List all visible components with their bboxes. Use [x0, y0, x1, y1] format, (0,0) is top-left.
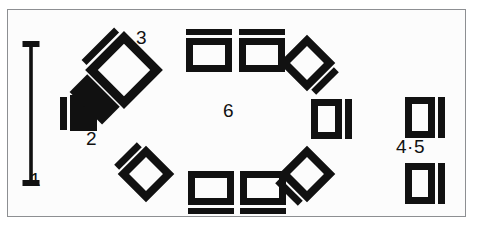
hollow-rect-top-left [186, 29, 232, 69]
label-2: 2 [86, 129, 97, 148]
figure-root: 1 2 3 4·5 6 [0, 0, 478, 233]
hollow-rect-bottom-left [188, 175, 234, 215]
hollow-rect-far-right-top [409, 97, 446, 138]
hollow-rect-far-right-bottom [409, 163, 446, 204]
hollow-rect-top-right [239, 29, 285, 69]
diamond-lower-left [114, 142, 168, 196]
diamond-upper-right [284, 40, 338, 94]
label-4-5: 4·5 [396, 137, 425, 156]
label-3: 3 [136, 28, 147, 47]
hollow-rect-bottom-right [240, 175, 286, 215]
plan-drawing [0, 0, 478, 233]
label-6: 6 [223, 101, 234, 120]
label-1: 1 [30, 170, 41, 189]
hollow-rect-right-middle [315, 99, 353, 139]
scale-bar [23, 41, 40, 186]
